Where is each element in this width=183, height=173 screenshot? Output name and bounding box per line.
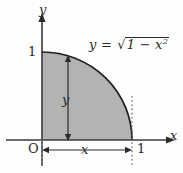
x-axis-label: x bbox=[170, 129, 177, 142]
equation-radical: √1 − x2 bbox=[116, 37, 169, 51]
y-axis-tick-label-1: 1 bbox=[28, 45, 36, 58]
radicand-var: x bbox=[155, 37, 163, 52]
measure-arrow-x-head-left bbox=[42, 147, 49, 153]
x-axis-tick-label-1: 1 bbox=[137, 142, 145, 155]
figure-container: y = √1 − x2 y x 1 1 O y x bbox=[0, 0, 183, 173]
curve-equation-label: y = √1 − x2 bbox=[89, 37, 169, 51]
equation-equals: = bbox=[101, 37, 112, 52]
y-axis-label: y bbox=[39, 3, 46, 16]
shaded-region bbox=[42, 52, 132, 140]
measure-label-y: y bbox=[62, 93, 69, 106]
radicand: 1 − x2 bbox=[125, 37, 169, 51]
radicand-exponent: 2 bbox=[163, 37, 168, 46]
measure-arrow-x-head-right bbox=[125, 147, 132, 153]
origin-label: O bbox=[28, 142, 39, 155]
radicand-lead: 1 bbox=[127, 37, 135, 52]
radicand-minus: − bbox=[140, 37, 151, 52]
measure-label-x: x bbox=[81, 143, 88, 156]
equation-lhs: y bbox=[89, 37, 97, 52]
